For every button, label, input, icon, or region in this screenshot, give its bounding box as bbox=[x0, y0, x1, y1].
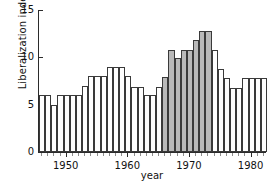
x-tick-minor bbox=[238, 153, 239, 156]
x-tick-minor bbox=[183, 153, 184, 156]
y-tick-label: 10 bbox=[21, 52, 34, 62]
x-tick-minor bbox=[103, 153, 104, 156]
bar-series bbox=[39, 10, 266, 152]
x-tick-minor bbox=[152, 153, 153, 156]
x-tick-minor bbox=[201, 153, 202, 156]
y-tick-label: 0 bbox=[28, 147, 34, 157]
x-tick-minor bbox=[41, 153, 42, 156]
x-axis-title: year bbox=[38, 170, 266, 181]
x-tick-minor bbox=[140, 153, 141, 156]
x-tick-minor bbox=[115, 153, 116, 156]
x-tick-minor bbox=[226, 153, 227, 156]
x-tick-major bbox=[127, 153, 128, 157]
x-tick-major bbox=[66, 153, 67, 157]
x-tick-minor bbox=[220, 153, 221, 156]
x-tick-minor bbox=[146, 153, 147, 156]
x-tick-minor bbox=[121, 153, 122, 156]
bar bbox=[261, 78, 267, 152]
x-tick-minor bbox=[195, 153, 196, 156]
x-tick-minor bbox=[109, 153, 110, 156]
x-tick-minor bbox=[158, 153, 159, 156]
x-tick-minor bbox=[84, 153, 85, 156]
x-tick-minor bbox=[177, 153, 178, 156]
x-tick-minor bbox=[47, 153, 48, 156]
x-tick-minor bbox=[170, 153, 171, 156]
y-tick-label: 5 bbox=[28, 100, 34, 110]
chart-figure: Liberalization index 051015 195019601970… bbox=[0, 0, 272, 191]
x-tick-minor bbox=[60, 153, 61, 156]
x-tick-minor bbox=[214, 153, 215, 156]
x-tick-minor bbox=[232, 153, 233, 156]
x-tick-major bbox=[251, 153, 252, 157]
y-tick-label: 15 bbox=[21, 5, 34, 15]
x-tick-minor bbox=[78, 153, 79, 156]
x-tick-minor bbox=[90, 153, 91, 156]
x-tick-minor bbox=[134, 153, 135, 156]
x-tick-minor bbox=[207, 153, 208, 156]
x-tick-minor bbox=[164, 153, 165, 156]
plot-area: 051015 1950196019701980 bbox=[38, 10, 266, 153]
x-tick-minor bbox=[97, 153, 98, 156]
x-tick-minor bbox=[72, 153, 73, 156]
x-tick-minor bbox=[244, 153, 245, 156]
x-tick-minor bbox=[263, 153, 264, 156]
x-tick-major bbox=[189, 153, 190, 157]
x-tick-minor bbox=[53, 153, 54, 156]
x-tick-minor bbox=[257, 153, 258, 156]
